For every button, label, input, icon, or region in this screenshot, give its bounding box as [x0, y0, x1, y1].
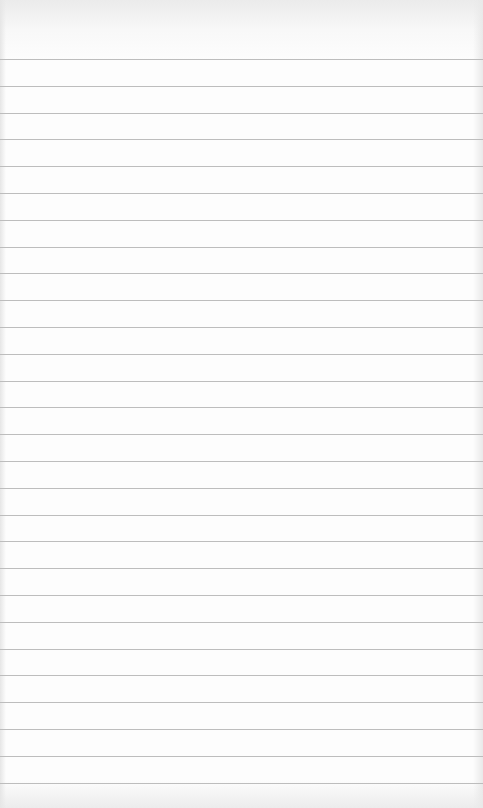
ruled-line: [0, 247, 483, 248]
ruled-line: [0, 461, 483, 462]
ruled-line: [0, 515, 483, 516]
ruled-line: [0, 327, 483, 328]
ruled-line: [0, 541, 483, 542]
ruled-line: [0, 193, 483, 194]
ruled-line: [0, 622, 483, 623]
ruled-line: [0, 166, 483, 167]
ruled-line: [0, 729, 483, 730]
ruled-line: [0, 59, 483, 60]
paper-right-edge: [473, 0, 483, 808]
ruled-line: [0, 675, 483, 676]
lined-paper: [0, 0, 483, 808]
ruled-line: [0, 86, 483, 87]
ruled-line: [0, 649, 483, 650]
ruled-line: [0, 381, 483, 382]
paper-left-edge: [0, 0, 6, 808]
ruled-line: [0, 220, 483, 221]
ruled-line: [0, 702, 483, 703]
ruled-line: [0, 300, 483, 301]
ruled-line: [0, 407, 483, 408]
ruled-line: [0, 568, 483, 569]
ruled-line: [0, 113, 483, 114]
ruled-line: [0, 139, 483, 140]
ruled-line: [0, 595, 483, 596]
ruled-line: [0, 273, 483, 274]
ruled-line: [0, 354, 483, 355]
ruled-line: [0, 756, 483, 757]
ruled-line: [0, 434, 483, 435]
ruled-line: [0, 783, 483, 784]
ruled-line: [0, 488, 483, 489]
